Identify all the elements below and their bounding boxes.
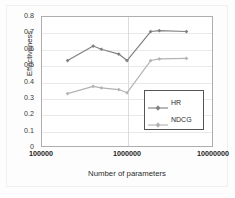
legend-label-ndcg: NDCG bbox=[171, 116, 192, 123]
series-line-ndcg bbox=[68, 58, 187, 93]
data-point-ndcg bbox=[117, 88, 121, 92]
chart-legend: HR NDCG bbox=[144, 90, 204, 130]
y-tick-label: 0.6 bbox=[8, 45, 34, 53]
x-axis-title: Number of parameters bbox=[41, 169, 213, 178]
data-point-hr bbox=[157, 29, 161, 33]
y-tick-label: 0.7 bbox=[8, 28, 34, 36]
x-tick-label: 10000000 bbox=[197, 150, 229, 158]
data-point-hr bbox=[100, 47, 104, 51]
data-point-ndcg bbox=[66, 92, 70, 96]
data-point-ndcg bbox=[91, 84, 95, 88]
data-point-hr bbox=[185, 30, 189, 34]
series-line-hr bbox=[68, 31, 187, 61]
y-tick-label: 0.1 bbox=[8, 127, 34, 135]
legend-item-hr[interactable]: HR bbox=[148, 96, 202, 108]
y-tick-label: 0.5 bbox=[8, 61, 34, 69]
y-tick-label: 0.8 bbox=[8, 12, 34, 20]
y-tick-label: 0.4 bbox=[8, 78, 34, 86]
x-tick-label: 100000 bbox=[29, 150, 53, 158]
legend-swatch-ndcg bbox=[148, 115, 168, 123]
legend-label-hr: HR bbox=[171, 99, 181, 106]
y-tick-label: 0.2 bbox=[8, 110, 34, 118]
data-point-ndcg bbox=[157, 57, 161, 61]
legend-swatch-hr bbox=[148, 98, 168, 106]
y-tick-label: 0.3 bbox=[8, 94, 34, 102]
x-tick-label: 1000000 bbox=[113, 150, 141, 158]
legend-item-ndcg[interactable]: NDCG bbox=[148, 113, 202, 125]
chart-figure: Effectiveness 00.10.20.30.40.50.60.70.8 … bbox=[0, 0, 235, 198]
data-point-ndcg bbox=[185, 57, 189, 61]
data-point-ndcg bbox=[100, 86, 104, 90]
